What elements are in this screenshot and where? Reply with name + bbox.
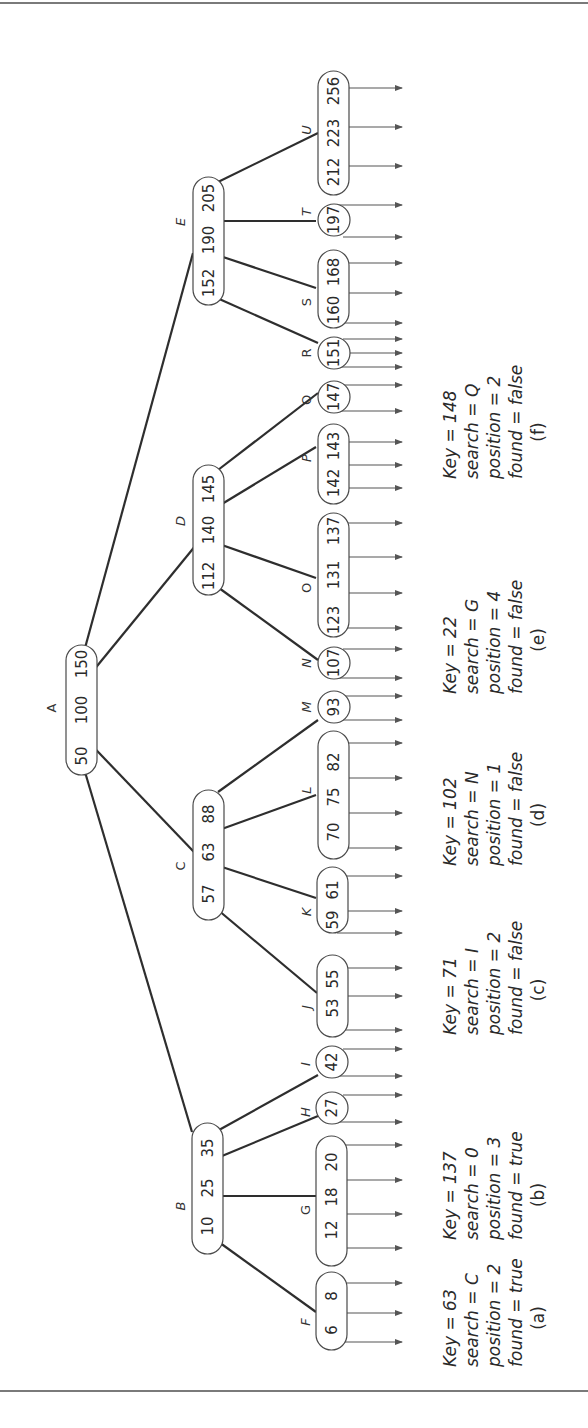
node-label: G <box>298 1205 313 1215</box>
caption-search: search = G <box>462 599 482 694</box>
node-label: Q <box>299 395 314 405</box>
node-label: E <box>173 217 188 226</box>
key: 18 <box>323 1187 341 1206</box>
key: 123 <box>325 606 343 635</box>
leaf-m: M 93 <box>299 691 350 723</box>
key: 151 <box>325 339 343 368</box>
node-label: I <box>298 1062 313 1066</box>
key: 107 <box>325 649 343 678</box>
key: 8 <box>323 1291 341 1301</box>
caption-position: position = 4 <box>484 591 504 695</box>
caption-search: search = 0 <box>462 1147 482 1240</box>
node-label: L <box>299 786 314 793</box>
caption-key: Key = 63 <box>440 1289 460 1367</box>
node-e: E 152 190 205 <box>173 177 224 305</box>
key: 145 <box>200 475 218 504</box>
caption-position: position = 1 <box>484 763 504 867</box>
leaf-h: H 27 <box>298 1092 348 1124</box>
key: 42 <box>323 1052 341 1071</box>
caption-id: (e) <box>528 628 548 652</box>
key: 205 <box>200 184 218 213</box>
caption-position: position = 2 <box>484 376 504 480</box>
caption-position: position = 2 <box>484 932 504 1036</box>
leaf-u: U 212 223 256 <box>299 71 349 195</box>
leaf-f: F 6 8 <box>298 1272 347 1350</box>
key: 212 <box>325 158 343 187</box>
key: 137 <box>325 517 343 546</box>
key: 10 <box>199 1216 217 1235</box>
edges-internal <box>216 133 318 1312</box>
node-label: F <box>298 1318 313 1326</box>
node-label: D <box>173 516 188 526</box>
caption-b: Key = 137 search = 0 position = 3 found … <box>440 1131 548 1241</box>
key: 142 <box>325 469 343 498</box>
node-label: C <box>173 861 188 870</box>
key: 55 <box>324 969 342 988</box>
caption-key: Key = 22 <box>440 616 460 694</box>
key: 57 <box>200 884 218 903</box>
leaf-i: I 42 <box>298 1046 348 1078</box>
caption-e: Key = 22 search = G position = 4 found =… <box>440 580 548 695</box>
leaf-s: S 160 168 <box>299 250 349 328</box>
key: 53 <box>324 998 342 1017</box>
caption-search: search = N <box>462 771 482 866</box>
node-b: B 10 25 35 <box>173 1123 223 1254</box>
caption-search: search = C <box>462 1273 482 1367</box>
key: 61 <box>324 880 342 899</box>
key: 63 <box>200 842 218 861</box>
leaf-q: Q 147 <box>299 381 350 413</box>
caption-found: found = false <box>506 365 526 479</box>
key: 70 <box>325 822 343 841</box>
caption-found: found = false <box>506 921 526 1035</box>
leaf-p: P 142 143 <box>299 424 349 504</box>
key: 112 <box>200 562 218 591</box>
btree-diagram: A 50 100 150 B 10 25 35 C 57 63 88 D 112… <box>0 0 588 1428</box>
caption-f: Key = 148 search = Q position = 2 found … <box>440 365 548 480</box>
node-label: H <box>298 1107 313 1117</box>
node-label: M <box>299 701 314 712</box>
key: 50 <box>73 746 91 765</box>
node-label: N <box>299 658 314 668</box>
key: 256 <box>325 77 343 106</box>
key: 223 <box>325 119 343 148</box>
node-label: K <box>299 906 314 916</box>
node-c: C 57 63 88 <box>173 790 224 920</box>
caption-found: found = false <box>506 752 526 866</box>
key: 197 <box>325 206 343 235</box>
key: 82 <box>325 752 343 771</box>
key: 20 <box>323 1152 341 1171</box>
node-label: U <box>299 125 314 135</box>
key: 35 <box>199 1138 217 1157</box>
caption-key: Key = 137 <box>440 1151 460 1240</box>
caption-position: position = 2 <box>484 1264 504 1368</box>
caption-id: (b) <box>528 1183 548 1207</box>
caption-found: found = true <box>506 1258 526 1367</box>
key: 143 <box>325 432 343 461</box>
leaf-j: J 53 55 <box>299 955 348 1037</box>
leaf-l: L 70 75 82 <box>299 731 349 859</box>
node-a: A 50 100 150 <box>44 645 97 775</box>
key: 160 <box>325 296 343 325</box>
node-d: D 112 140 145 <box>173 465 224 595</box>
leaf-g: G 12 18 20 <box>298 1136 347 1266</box>
node-label: O <box>299 583 314 593</box>
caption-search: search = Q <box>462 384 482 479</box>
node-label: J <box>299 1005 314 1012</box>
caption-a: Key = 63 search = C position = 2 found =… <box>440 1258 548 1368</box>
node-label: A <box>44 703 59 712</box>
caption-key: Key = 148 <box>440 390 460 479</box>
caption-id: (a) <box>528 1306 548 1330</box>
key: 88 <box>200 804 218 823</box>
key: 152 <box>200 269 218 298</box>
key: 131 <box>325 561 343 590</box>
key: 147 <box>325 383 343 412</box>
leaf-k: K 59 61 <box>299 867 348 933</box>
node-label: R <box>299 348 314 357</box>
node-label: P <box>299 454 314 462</box>
caption-id: (f) <box>528 422 548 441</box>
key: 168 <box>325 258 343 287</box>
key: 140 <box>200 516 218 545</box>
key: 25 <box>199 1178 217 1197</box>
caption-position: position = 3 <box>484 1137 504 1241</box>
key: 93 <box>325 697 343 716</box>
